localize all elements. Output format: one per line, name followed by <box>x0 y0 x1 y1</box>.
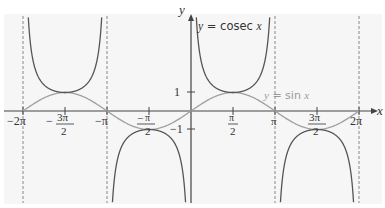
svg-text:π: π <box>145 112 150 123</box>
svg-text:2: 2 <box>230 125 236 137</box>
svg-text:2: 2 <box>61 125 67 137</box>
sin-label: y = sin x <box>263 89 309 102</box>
svg-text:3π: 3π <box>309 111 321 123</box>
svg-text:3π: 3π <box>57 111 69 123</box>
x-tick-pi2: π 2 <box>228 112 238 137</box>
svg-text:−: − <box>137 112 143 124</box>
svg-text:−: − <box>46 114 53 128</box>
cosec-label: y = cosec x <box>197 19 262 33</box>
x-axis-label: x <box>376 103 383 118</box>
svg-text:2: 2 <box>145 125 151 137</box>
x-tick-negpi: −π <box>95 114 108 128</box>
x-tick-3pi2: 3π 2 <box>308 111 326 137</box>
x-tick-2pi: 2π <box>350 114 362 128</box>
y-tick-1: 1 <box>174 85 180 99</box>
svg-text:2: 2 <box>313 125 319 137</box>
x-tick-neg3pi2: − 3π 2 <box>46 111 74 137</box>
y-axis-arrow-icon <box>188 14 194 21</box>
svg-text:π: π <box>229 112 234 123</box>
y-axis-label: y <box>177 2 185 17</box>
x-tick-pi: π <box>271 115 277 127</box>
x-tick-neg2pi: −2π <box>7 114 26 128</box>
y-tick-neg1: −1 <box>170 122 183 136</box>
x-tick-negpi2: − π 2 <box>137 112 155 137</box>
chart-svg: y x y = cosec x y = sin x 1 −1 −2π − 3π … <box>0 0 385 208</box>
